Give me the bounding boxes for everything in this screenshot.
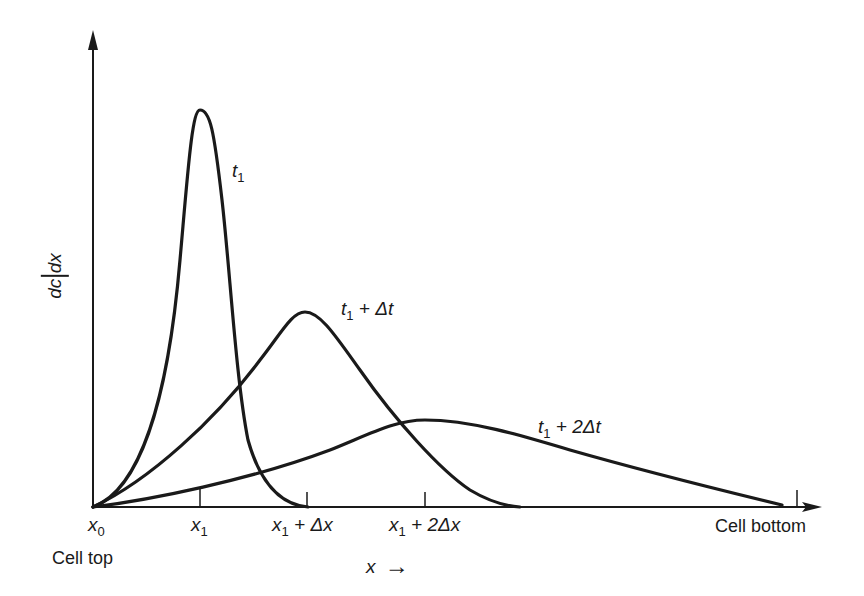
tick-label-base: x (389, 514, 399, 535)
x-axis-label-text: x (366, 556, 376, 577)
fraction-bar (41, 275, 69, 277)
x-axis-label: x → (366, 551, 409, 579)
cell-top-label: Cell top (52, 548, 113, 569)
x-tick-label-x1-plus-2dx: x1 + 2Δx (389, 514, 460, 536)
curve-label-t1-plus-dt: t1 + Δt (341, 298, 393, 320)
y-axis-label-numerator: dc (44, 279, 66, 299)
curve-label-sub: 1 (346, 308, 353, 323)
tick-label-base: x (191, 514, 201, 535)
y-axis-arrow-icon (88, 30, 98, 50)
tick-label-sub: 0 (98, 524, 105, 539)
curve-label-t1-plus-2dt: t1 + 2Δt (538, 416, 601, 438)
x-tick-label-x0: x0 (88, 514, 105, 536)
curve-label-sub: 1 (543, 426, 550, 441)
y-axis-label-denominator: dx (44, 253, 66, 273)
curve-t1 (93, 110, 308, 507)
tick-label-sub: 1 (399, 524, 406, 539)
tick-label-base: x (88, 514, 98, 535)
curve-label-suffix: + 2Δt (551, 416, 601, 437)
tick-label-sub: 1 (201, 524, 208, 539)
tick-label-sub: 1 (282, 524, 289, 539)
diagram-canvas (0, 0, 864, 596)
concentration-gradient-diagram: dc dx t1 t1 + Δt t1 + 2Δt x0 x1 x1 + Δx … (0, 0, 864, 596)
curve-label-suffix: + Δt (354, 298, 394, 319)
curve-label-sub: 1 (237, 170, 244, 185)
y-axis-label: dc dx (41, 253, 69, 299)
x-tick-label-x1: x1 (191, 514, 208, 536)
right-arrow-icon: → (385, 552, 409, 579)
tick-label-base: x (272, 514, 282, 535)
tick-label-suffix: + Δx (289, 514, 333, 535)
cell-bottom-label: Cell bottom (715, 516, 806, 537)
tick-label-suffix: + 2Δx (406, 514, 460, 535)
x-tick-label-x1-plus-dx: x1 + Δx (272, 514, 333, 536)
curve-label-t1: t1 (232, 160, 245, 182)
